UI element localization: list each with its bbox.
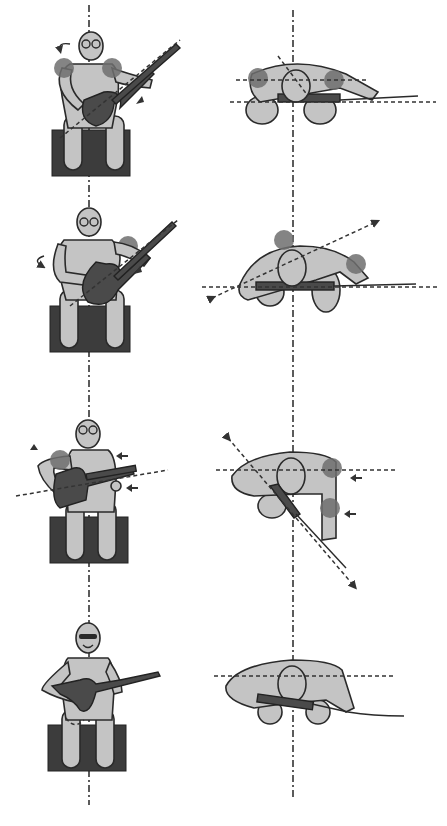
push-arrow-icon [116,452,128,460]
left-shoulder-highlight [54,58,74,78]
push-arrow-icon [126,484,138,492]
row3-front-view [16,420,168,563]
head [76,420,100,448]
guitar-posture-diagram [0,0,447,826]
elbow-highlight [320,498,340,518]
shoulder-highlight [322,458,342,478]
left-shoulder-highlight [248,68,268,88]
push-arrow-icon [350,474,362,482]
row1-front-view [52,32,180,176]
row4-front-view [42,623,160,771]
row1-top-view [230,56,436,124]
head-top [278,666,306,702]
shoulder-highlight [274,230,294,250]
right-shoulder-highlight [102,58,122,78]
head-top [278,250,306,286]
row4-top-view [214,660,404,724]
push-arrow-icon [344,510,356,518]
guitar-neck-top [334,284,416,286]
guitar-neck-top [340,96,418,100]
rotation-arrow-icon [37,256,44,266]
row2-front-view [37,208,178,352]
row2-top-view [202,222,440,312]
head-top [282,70,310,102]
row3-top-view [216,438,396,586]
left-arm-highlight [50,450,70,470]
guitar-neck-top [296,514,346,568]
elbow-highlight [346,254,366,274]
up-arrow-icon [30,444,38,456]
fretting-hand [111,481,121,491]
wrist-arrow-icon [136,96,144,104]
sunglasses-icon [79,634,97,639]
rotation-arrow-icon [60,44,70,50]
